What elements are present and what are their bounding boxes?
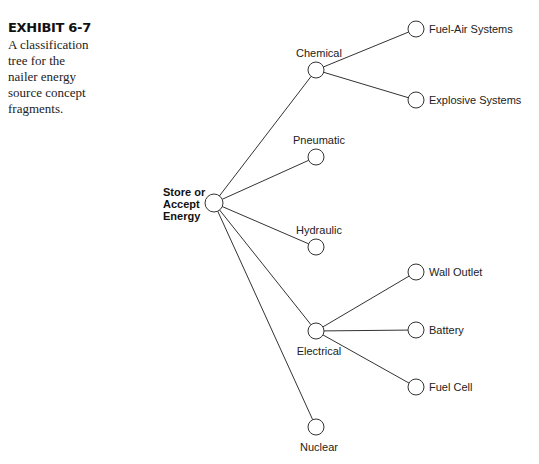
node-label: Wall Outlet <box>429 266 482 278</box>
node-circle-icon <box>408 21 424 37</box>
node-explosive: Explosive Systems <box>408 92 522 108</box>
node-pneumatic: Pneumatic <box>293 134 345 165</box>
root-label-line: Store or <box>163 186 206 198</box>
tree-nodes: ChemicalFuel-Air SystemsExplosive System… <box>205 21 522 453</box>
node-electrical: Electrical <box>297 323 342 357</box>
node-circle-icon <box>308 149 324 165</box>
node-fuel-air: Fuel-Air Systems <box>408 21 513 37</box>
node-label: Hydraulic <box>296 224 342 236</box>
edge-electrical-to-fuel-cell <box>323 335 409 383</box>
classification-tree: ChemicalFuel-Air SystemsExplosive System… <box>0 0 539 464</box>
node-battery: Battery <box>408 322 464 338</box>
node-circle-icon <box>308 419 324 435</box>
node-circle-icon <box>308 62 324 78</box>
node-circle-icon <box>408 322 424 338</box>
node-circle-icon <box>408 92 424 108</box>
node-root <box>205 194 223 212</box>
node-label: Nuclear <box>300 441 338 453</box>
node-circle-icon <box>308 239 324 255</box>
node-wall-outlet: Wall Outlet <box>408 264 482 280</box>
node-label: Fuel Cell <box>429 381 472 393</box>
edge-chemical-to-explosive <box>324 72 409 97</box>
node-nuclear: Nuclear <box>300 419 338 453</box>
node-fuel-cell: Fuel Cell <box>408 379 472 395</box>
node-circle-icon <box>308 323 324 339</box>
node-circle-icon <box>205 194 223 212</box>
root-label-line: Accept <box>163 198 200 210</box>
node-label: Electrical <box>297 345 342 357</box>
edge-electrical-to-battery <box>324 330 408 331</box>
edge-root-to-nuclear <box>217 210 312 419</box>
node-circle-icon <box>408 379 424 395</box>
root-label: Store or Accept Energy <box>163 186 206 222</box>
node-label: Pneumatic <box>293 134 345 146</box>
edge-root-to-pneumatic <box>221 160 308 199</box>
node-hydraulic: Hydraulic <box>296 224 342 255</box>
node-label: Explosive Systems <box>429 94 522 106</box>
node-circle-icon <box>408 264 424 280</box>
edge-electrical-to-wall-outlet <box>323 276 409 327</box>
node-label: Chemical <box>296 47 342 59</box>
node-label: Battery <box>429 324 464 336</box>
root-label-line: Energy <box>163 210 201 222</box>
node-label: Fuel-Air Systems <box>429 23 513 35</box>
